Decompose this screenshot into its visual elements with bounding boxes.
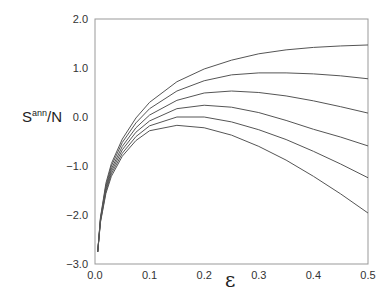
plot-frame: [95, 19, 368, 264]
y-tick-label: 0.0: [73, 111, 88, 123]
x-tick-label: 0.5: [360, 269, 375, 281]
x-tick-label: 0.4: [306, 269, 321, 281]
x-tick-label: 0.1: [142, 269, 157, 281]
y-axis-label: Sann/N: [22, 108, 62, 125]
x-tick-label: 0.2: [197, 269, 212, 281]
x-axis-label: ε: [225, 268, 235, 292]
line-curve-5: [98, 117, 368, 252]
axis-ticks: 0.00.10.20.30.40.52.01.00.0−1.0−2.0−3.0: [66, 13, 375, 281]
x-tick-label: 0.3: [251, 269, 266, 281]
y-tick-label: 2.0: [73, 13, 88, 25]
line-curve-2: [98, 73, 368, 252]
y-tick-label: −1.0: [66, 160, 88, 172]
chart: 0.00.10.20.30.40.52.01.00.0−1.0−2.0−3.0: [0, 0, 386, 303]
line-curve-4: [98, 105, 368, 252]
line-curve-6: [98, 125, 368, 251]
line-curve-1: [98, 45, 368, 252]
y-tick-label: −3.0: [66, 258, 88, 270]
y-tick-label: 1.0: [73, 62, 88, 74]
x-tick-label: 0.0: [87, 269, 102, 281]
data-lines: [98, 45, 368, 252]
y-tick-label: −2.0: [66, 209, 88, 221]
